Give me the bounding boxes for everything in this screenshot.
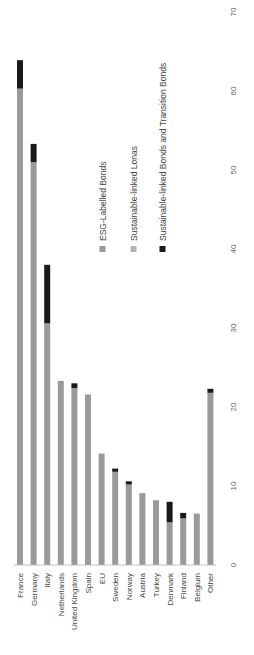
category-label: Other (206, 573, 215, 593)
legend: ESG-Labelled BondsSustainable-linked Lon… (98, 63, 168, 252)
bar-segment (85, 394, 91, 565)
bar-segment (112, 472, 118, 565)
bar-segment (17, 89, 23, 565)
bar-segment (167, 522, 173, 565)
category-label: United Kingdom (70, 573, 79, 630)
legend-item: Sustainable-linked Bonds and Transition … (158, 63, 168, 252)
bar-segment (17, 60, 23, 88)
value-tick-label: 70 (229, 7, 238, 16)
category-label: Germany (30, 573, 39, 606)
category-label: Sweden (111, 573, 120, 602)
bar-segment (153, 500, 159, 565)
bars-group (17, 60, 213, 565)
bar-segment (31, 162, 37, 565)
value-tick-label: 50 (229, 165, 238, 174)
bar-segment (71, 383, 77, 388)
bar-segment (71, 388, 77, 565)
bar-segment (180, 513, 186, 519)
category-label: Turkey (152, 573, 161, 597)
category-label: EU (98, 573, 107, 584)
value-axis-ticks: 010203040506070 (229, 7, 238, 567)
category-labels: FranceGermanyItalyNetherlandsUnited King… (16, 572, 215, 630)
category-label: Norway (125, 573, 134, 600)
legend-swatch-icon (160, 246, 166, 252)
bar-segment (58, 381, 64, 565)
value-tick-label: 0 (229, 562, 238, 567)
legend-item: Sustainable-linked Lonas (129, 146, 139, 252)
bar-segment (167, 502, 173, 523)
bar-segment (207, 393, 213, 565)
bar-segment (112, 469, 118, 472)
bar-segment (99, 454, 105, 565)
legend-swatch-icon (131, 246, 137, 252)
category-label: Spain (84, 573, 93, 593)
value-tick-label: 30 (229, 323, 238, 332)
value-tick-label: 40 (229, 244, 238, 253)
value-tick-label: 60 (229, 86, 238, 95)
value-tick-label: 10 (229, 481, 238, 490)
bar-segment (207, 389, 213, 393)
bar-segment (31, 144, 37, 162)
bar-segment (194, 514, 200, 565)
legend-label: Sustainable-linked Lonas (129, 146, 139, 241)
legend-swatch-icon (100, 246, 106, 252)
legend-label: ESG-Labelled Bonds (98, 162, 108, 241)
bar-segment (44, 323, 50, 565)
legend-item: ESG-Labelled Bonds (98, 162, 108, 252)
bar-segment (44, 265, 50, 324)
category-label: Belgium (193, 573, 202, 602)
category-label: France (16, 572, 25, 597)
bar-segment (139, 493, 145, 565)
bar-segment (126, 484, 132, 565)
category-label: Italy (43, 573, 52, 588)
value-tick-label: 20 (229, 402, 238, 411)
category-label: Austria (138, 572, 147, 597)
bar-segment (180, 518, 186, 565)
category-label: Netherlands (57, 573, 66, 616)
stacked-bar-chart: 010203040506070 FranceGermanyItalyNether… (0, 0, 254, 655)
category-label: Denmark (166, 572, 175, 605)
legend-label: Sustainable-linked Bonds and Transition … (158, 63, 168, 241)
bar-segment (126, 481, 132, 484)
category-label: Finland (179, 573, 188, 599)
